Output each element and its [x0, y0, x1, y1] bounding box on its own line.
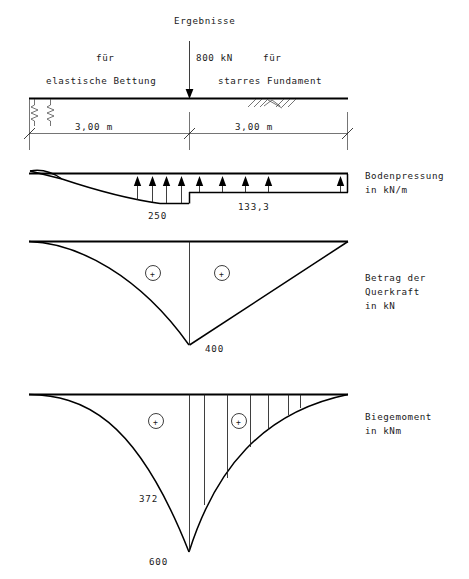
moment-plus-right-glyph: + — [236, 418, 241, 427]
moment-side-label-line1: Biegemoment — [365, 411, 432, 422]
pressure-arrows-right — [196, 176, 344, 192]
moment-ordinate-lines — [205, 395, 301, 506]
dimension-left-label: 3,00 m — [75, 121, 113, 132]
moment-value-372: 372 — [139, 493, 158, 504]
moment-plus-marker-left: + — [149, 414, 164, 429]
panel-shear-force: + + 400 Betrag der Querkraft in kN — [29, 242, 426, 355]
dimension-line: 3,00 m 3,00 m — [24, 99, 353, 150]
header-right-line1: für — [263, 52, 281, 63]
moment-plus-left-glyph: + — [153, 418, 158, 427]
point-load-arrow — [186, 41, 194, 99]
shear-plus-right-glyph: + — [219, 270, 224, 279]
moment-value-600: 600 — [149, 556, 168, 567]
shear-side-label-line2: Querkraft — [365, 286, 420, 297]
load-label: 800 kN — [196, 52, 233, 63]
soil-pressure-value-133: 133,3 — [238, 201, 270, 212]
results-diagram: Ergebnisse für elastische Bettung 800 kN… — [0, 0, 469, 579]
shear-side-label-line3: in kN — [365, 300, 395, 311]
pressure-arrows-left — [134, 176, 185, 203]
panel-bending-moment: + + 372 600 Biegemoment in kNm — [29, 395, 432, 568]
shear-plus-marker-right: + — [215, 266, 230, 281]
moment-side-label-line2: in kNm — [365, 425, 402, 436]
soil-pressure-side-label-line2: in kN/m — [365, 184, 408, 195]
shear-plus-left-glyph: + — [150, 270, 155, 279]
shear-value-400: 400 — [205, 343, 224, 354]
header-left-line2: elastische Bettung — [46, 75, 156, 86]
elastic-bedding-springs — [31, 99, 54, 126]
soil-pressure-side-label-line1: Bodenpressung — [365, 170, 444, 181]
rigid-foundation-hatch-icon — [248, 99, 296, 108]
header-right-line2: starres Fundament — [218, 75, 322, 86]
moment-plus-marker-right: + — [232, 414, 247, 429]
shear-plus-marker-left: + — [146, 266, 161, 281]
figure-title: Ergebnisse — [174, 15, 235, 26]
header-left-line1: für — [96, 52, 114, 63]
soil-pressure-value-250: 250 — [148, 210, 167, 221]
panel-soil-pressure: 250 133,3 Bodenpressung in kN/m — [29, 170, 444, 221]
shear-side-label-line1: Betrag der — [365, 272, 426, 283]
dimension-right-label: 3,00 m — [235, 121, 273, 132]
